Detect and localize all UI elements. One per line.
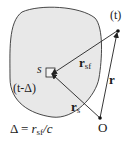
retarded-time-label: (t-Δ) <box>13 81 36 95</box>
field-point-dot <box>116 29 120 33</box>
origin-label: O <box>98 120 107 135</box>
r-label: r <box>109 72 115 87</box>
delay-equation: Δ = rsf/c <box>10 121 53 137</box>
source-label: s <box>37 62 42 76</box>
diagram-canvas: s (t-Δ) (t) O rsf r rs Δ = rsf/c <box>0 0 134 144</box>
field-time-label: (t) <box>110 8 121 22</box>
